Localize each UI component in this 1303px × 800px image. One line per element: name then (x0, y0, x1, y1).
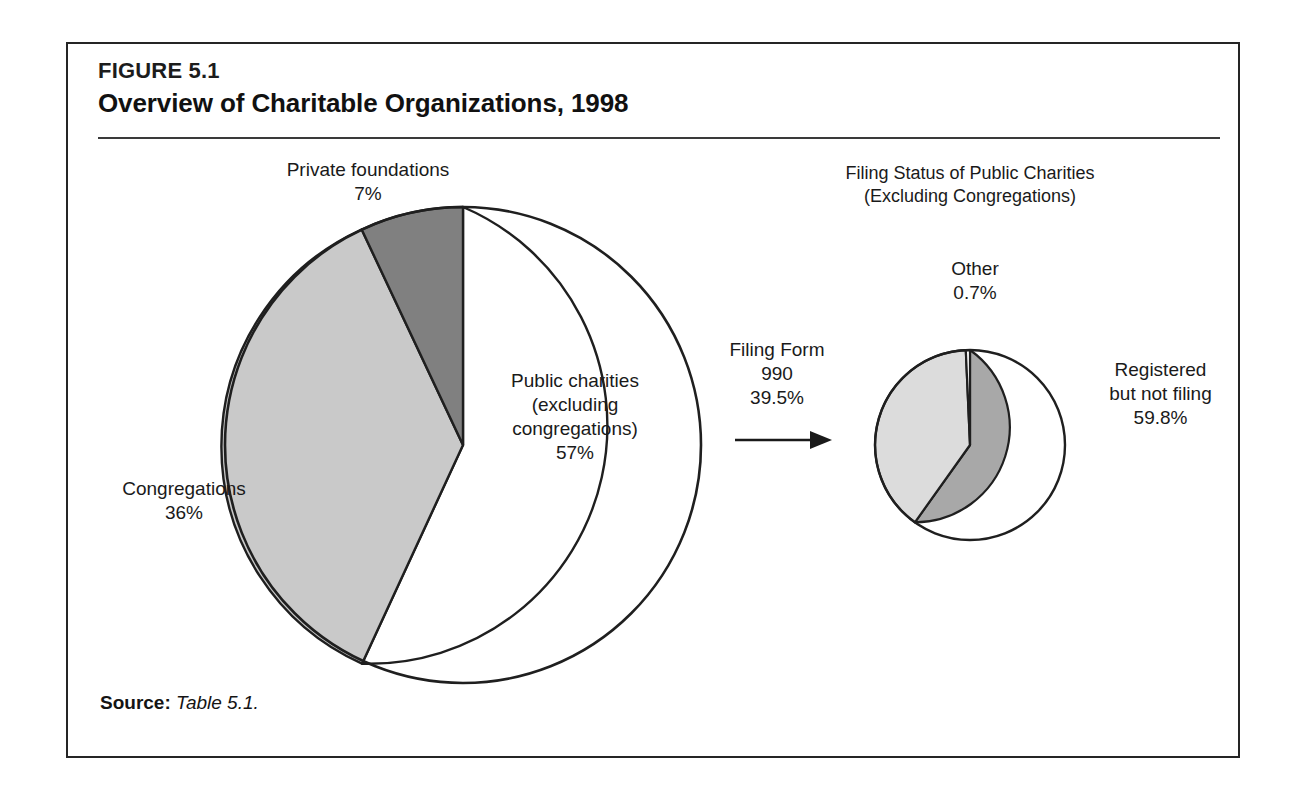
title-divider (98, 137, 1220, 139)
source-note: Source: Table 5.1. (100, 692, 259, 714)
figure-number: FIGURE 5.1 (98, 58, 1198, 84)
figure-root: FIGURE 5.1 Overview of Charitable Organi… (0, 0, 1303, 800)
source-label: Source: (100, 692, 171, 713)
source-value: Table 5.1. (176, 692, 259, 713)
figure-frame (66, 42, 1240, 758)
figure-title: Overview of Charitable Organizations, 19… (98, 87, 1198, 120)
figure-title-block: FIGURE 5.1 Overview of Charitable Organi… (98, 58, 1198, 120)
